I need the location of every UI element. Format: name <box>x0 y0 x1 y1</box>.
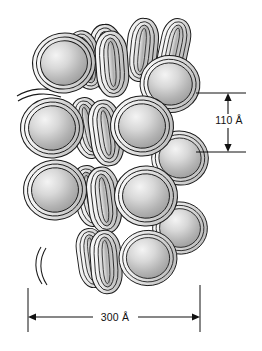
chromatin-figure: 110 Å 300 Å <box>0 0 262 351</box>
chromatin-diagram-svg: 110 Å 300 Å <box>0 0 262 351</box>
dna-coil-icon <box>41 248 47 285</box>
dimension-arrow-icon <box>224 144 231 152</box>
dimension-arrow-icon <box>28 313 36 320</box>
dimension-arrow-icon <box>192 313 200 320</box>
nucleosome-center-column <box>108 94 179 287</box>
dimension-arrow-icon <box>224 93 231 101</box>
dimension-label-horizontal: 300 Å <box>101 311 129 323</box>
dimension-label-vertical: 110 Å <box>215 114 243 126</box>
